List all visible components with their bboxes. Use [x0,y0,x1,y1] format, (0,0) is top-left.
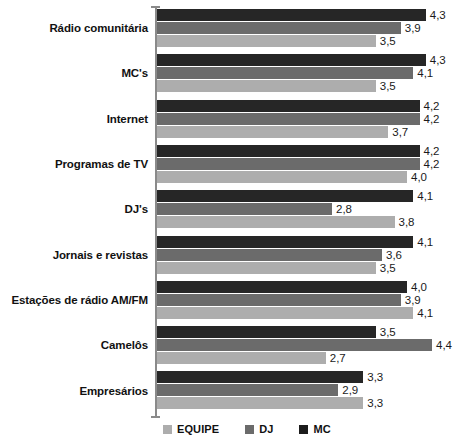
bar-row-set: 4,34,13,5 [157,51,454,96]
bar-value-label: 3,8 [399,214,415,230]
category-label: Camelôs [0,323,148,368]
legend-item-dj[interactable]: DJ [245,423,273,435]
bar-group: Programas de TV4,24,24,0 [0,142,454,187]
bar-row-set: 4,13,63,5 [157,233,454,278]
bar-dj [157,158,420,170]
bar-group: Estações de rádio AM/FM4,03,94,1 [0,278,454,323]
legend-item-mc[interactable]: MC [299,423,330,435]
bar-value-label: 3,5 [380,260,396,276]
bar-dj [157,294,401,306]
bar-value-label: 3,9 [405,20,421,36]
bar-dj [157,339,432,351]
bar-value-label: 2,8 [336,201,352,217]
bar-row-set: 4,03,94,1 [157,278,454,323]
bar-group: Camelôs3,54,42,7 [0,323,454,368]
bar-group: MC's4,34,13,5 [0,51,454,96]
category-label: Internet [0,97,148,142]
bar-mc [157,190,413,202]
legend-label: DJ [259,423,273,435]
plot-area: Rádio comunitária4,33,93,5MC's4,34,13,5I… [0,0,454,438]
bar-mc [157,371,363,383]
bar-value-label: 4,4 [436,337,452,353]
bar-row-set: 4,12,83,8 [157,187,454,232]
bar-value-label: 4,0 [411,169,427,185]
bar-value-label: 4,2 [424,111,440,127]
bar-equipe [157,171,407,183]
bar-equipe [157,352,326,364]
bar-equipe [157,126,388,138]
bar-value-label: 2,7 [330,350,346,366]
bar-value-label: 3,5 [380,324,396,340]
category-label: MC's [0,51,148,96]
bar-value-label: 4,3 [430,7,446,23]
bar-equipe [157,35,376,47]
axis-tick-bottom [151,416,160,418]
legend-swatch-icon [245,425,254,434]
bar-mc [157,326,376,338]
bar-value-label: 3,7 [392,124,408,140]
bar-dj [157,384,338,396]
category-label: Estações de rádio AM/FM [0,278,148,323]
category-label: Rádio comunitária [0,6,148,51]
legend-swatch-icon [299,425,308,434]
bar-mc [157,9,426,21]
bar-mc [157,100,420,112]
bar-value-label: 4,1 [417,234,433,250]
bar-row-set: 3,32,93,3 [157,368,454,413]
category-label: Jornais e revistas [0,233,148,278]
bar-equipe [157,307,413,319]
bar-equipe [157,262,376,274]
bar-value-label: 4,1 [417,305,433,321]
bar-equipe [157,80,376,92]
bar-mc [157,145,420,157]
bar-row-set: 4,33,93,5 [157,6,454,51]
bar-dj [157,203,332,215]
bar-value-label: 2,9 [342,382,358,398]
bar-dj [157,249,382,261]
bar-group: DJ's4,12,83,8 [0,187,454,232]
bar-equipe [157,216,395,228]
category-label: Empresários [0,368,148,413]
bar-value-label: 3,3 [367,369,383,385]
chart-legend: EQUIPEDJMC [163,421,357,437]
bar-value-label: 3,5 [380,33,396,49]
bar-group: Empresários3,32,93,3 [0,368,454,413]
legend-label: MC [313,423,330,435]
legend-swatch-icon [163,425,172,434]
bar-group: Internet4,24,23,7 [0,97,454,142]
bar-dj [157,113,420,125]
bar-row-set: 4,24,23,7 [157,97,454,142]
bar-equipe [157,397,363,409]
bar-group: Jornais e revistas4,13,63,5 [0,233,454,278]
bar-group: Rádio comunitária4,33,93,5 [0,6,454,51]
category-label: DJ's [0,187,148,232]
bar-row-set: 3,54,42,7 [157,323,454,368]
bar-value-label: 3,3 [367,395,383,411]
bar-mc [157,281,407,293]
bar-value-label: 4,1 [417,65,433,81]
bar-dj [157,67,413,79]
bar-mc [157,54,426,66]
bar-dj [157,22,401,34]
legend-label: EQUIPE [177,423,219,435]
bar-row-set: 4,24,24,0 [157,142,454,187]
bar-value-label: 3,5 [380,78,396,94]
bar-mc [157,236,413,248]
legend-item-equipe[interactable]: EQUIPE [163,423,219,435]
bar-chart: Rádio comunitária4,33,93,5MC's4,34,13,5I… [0,0,454,438]
category-label: Programas de TV [0,142,148,187]
bar-value-label: 4,1 [417,188,433,204]
